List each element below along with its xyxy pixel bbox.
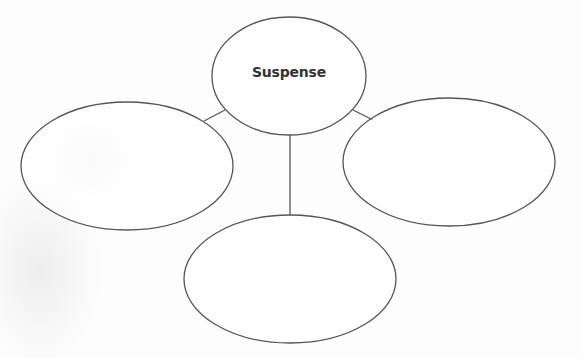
bottom-bubble[interactable] — [184, 215, 396, 343]
center-bubble-label: Suspense — [212, 64, 366, 80]
diagram-canvas: Suspense — [0, 0, 582, 358]
right-bubble[interactable] — [343, 98, 555, 226]
left-bubble[interactable] — [21, 102, 233, 230]
connector-right — [353, 110, 373, 120]
connector-left — [204, 110, 225, 121]
bubble-map — [0, 0, 582, 358]
